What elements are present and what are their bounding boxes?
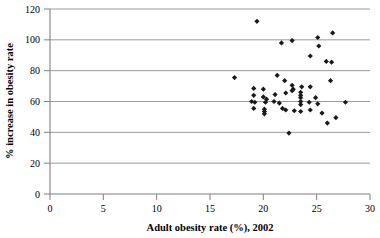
y-tick-label: 60: [30, 96, 40, 107]
data-point: [313, 95, 318, 100]
data-point: [290, 83, 295, 88]
x-tick-label: 10: [152, 203, 162, 214]
data-point: [343, 100, 348, 105]
data-point: [298, 102, 303, 107]
data-point: [308, 107, 313, 112]
x-tick-label: 0: [48, 203, 53, 214]
y-tick-label: 40: [30, 127, 40, 138]
data-point: [330, 30, 335, 35]
data-point-series: [232, 19, 348, 136]
data-point: [316, 43, 321, 48]
data-point: [319, 110, 324, 115]
scatter-chart: 020406080100120 051015202530 Adult obesi…: [0, 0, 380, 238]
chart-svg: 020406080100120 051015202530 Adult obesi…: [0, 0, 380, 238]
x-tick-label: 5: [101, 203, 106, 214]
data-point: [271, 99, 276, 104]
data-point: [292, 108, 297, 113]
data-point: [290, 38, 295, 43]
y-tick-label: 20: [30, 158, 40, 169]
data-point: [283, 90, 288, 95]
data-point: [328, 78, 333, 83]
data-point: [298, 109, 303, 114]
data-point: [232, 75, 237, 80]
data-point: [324, 59, 329, 64]
grid-lines: [50, 9, 370, 163]
data-point: [308, 84, 313, 89]
data-point: [307, 100, 312, 105]
data-point: [325, 120, 330, 125]
y-tick-label: 0: [35, 189, 40, 200]
data-point: [282, 78, 287, 83]
data-point: [329, 60, 334, 65]
data-point: [275, 73, 280, 78]
data-point: [299, 84, 304, 89]
data-point: [254, 19, 259, 24]
data-point: [333, 115, 338, 120]
y-tick-label: 120: [25, 4, 40, 15]
x-axis-title: Adult obesity rate (%), 2002: [147, 222, 274, 234]
data-point: [251, 86, 256, 91]
data-point: [261, 87, 266, 92]
data-point: [279, 40, 284, 45]
data-point: [251, 93, 256, 98]
x-tick-label: 20: [258, 203, 268, 214]
x-tick-label: 15: [205, 203, 215, 214]
y-axis-ticks: 020406080100120: [25, 4, 50, 200]
y-tick-label: 80: [30, 65, 40, 76]
data-point: [286, 131, 291, 136]
data-point: [308, 53, 313, 58]
x-axis-ticks: 051015202530: [48, 194, 376, 214]
y-tick-label: 100: [25, 34, 40, 45]
x-tick-label: 25: [312, 203, 322, 214]
data-point: [251, 106, 256, 111]
data-point: [272, 92, 277, 97]
y-axis-title: % increase in obesity rate: [4, 43, 15, 159]
x-tick-label: 30: [365, 203, 375, 214]
